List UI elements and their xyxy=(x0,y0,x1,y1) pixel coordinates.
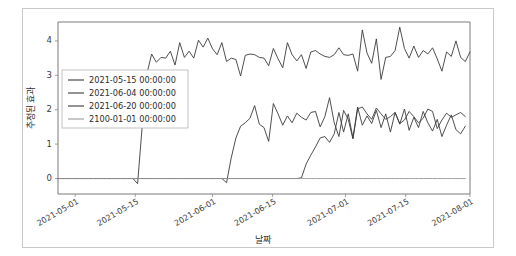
y-axis-title: 추정된 효과 xyxy=(25,87,36,130)
x-tick-label: 2021-08-01 xyxy=(430,197,475,228)
legend-entry-1[interactable]: 2021-06-04 00:00:00 xyxy=(89,88,176,98)
x-tick-label: 2021-07-15 xyxy=(366,197,411,228)
y-tick-label: 4 xyxy=(47,35,52,45)
legend-entry-0[interactable]: 2021-05-15 00:00:00 xyxy=(89,75,176,85)
plot-area-wrapper: 01234 2021-05-012021-05-152021-06-012021… xyxy=(0,0,516,256)
x-tick-label: 2021-06-01 xyxy=(173,197,218,228)
x-axis: 2021-05-012021-05-152021-06-012021-06-15… xyxy=(35,194,475,228)
y-tick-label: 3 xyxy=(47,70,52,80)
line-chart: 01234 2021-05-012021-05-152021-06-012021… xyxy=(0,0,516,256)
chart-legend[interactable]: 2021-05-15 00:00:002021-06-04 00:00:0020… xyxy=(62,70,188,128)
x-axis-title: 날짜 xyxy=(255,235,272,245)
x-tick-label: 2021-05-01 xyxy=(35,197,80,228)
legend-entry-2[interactable]: 2021-06-20 00:00:00 xyxy=(89,101,176,111)
x-tick-label: 2021-05-15 xyxy=(95,197,140,228)
y-tick-label: 1 xyxy=(47,139,52,149)
x-tick-label: 2021-06-15 xyxy=(233,197,278,228)
x-tick-label: 2021-07-01 xyxy=(306,197,351,228)
legend-entry-3[interactable]: 2100-01-01 00:00:00 xyxy=(89,114,176,124)
y-tick-label: 0 xyxy=(47,173,52,183)
y-tick-label: 2 xyxy=(47,104,52,114)
chart-figure: 01234 2021-05-012021-05-152021-06-012021… xyxy=(0,0,516,256)
